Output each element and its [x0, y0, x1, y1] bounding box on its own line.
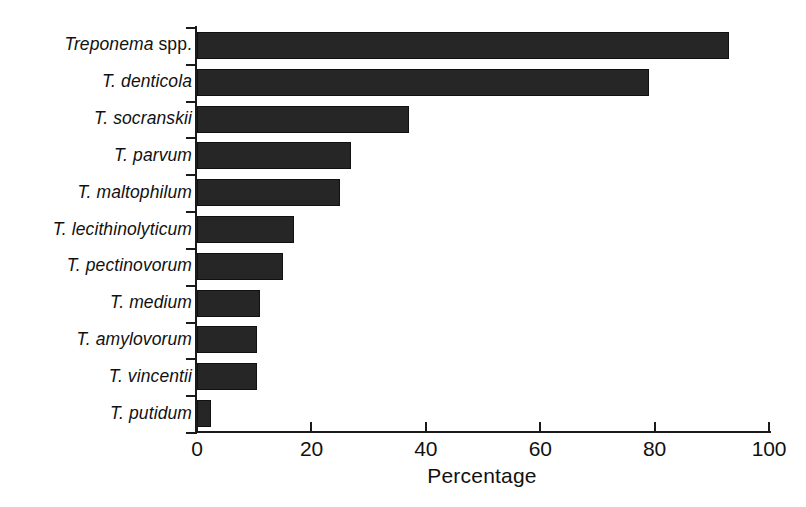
category-label: T. socranskii	[94, 108, 192, 129]
bar	[197, 253, 283, 280]
x-axis-tick	[768, 422, 770, 433]
category-label: T. putidum	[110, 403, 192, 424]
category-label: T. pectinovorum	[67, 255, 192, 276]
category-label: T. vincentii	[109, 366, 192, 387]
y-axis-tick	[186, 395, 197, 397]
bar	[197, 326, 257, 353]
bar	[197, 142, 351, 169]
category-label: T. medium	[110, 292, 192, 313]
bar	[197, 106, 409, 133]
y-axis-tick	[186, 137, 197, 139]
category-label: T. denticola	[102, 71, 192, 92]
plot-area	[197, 27, 769, 432]
x-axis-line	[195, 431, 771, 433]
x-axis-tick-label: 20	[300, 437, 323, 461]
bar	[197, 179, 340, 206]
bar	[197, 69, 649, 96]
category-label: T. lecithinolyticum	[53, 219, 192, 240]
category-label: T. parvum	[114, 145, 192, 166]
bar	[197, 400, 211, 427]
x-axis-tick	[196, 422, 198, 433]
y-axis-tick	[186, 27, 197, 29]
x-axis-tick-label: 100	[752, 437, 786, 461]
x-axis-tick-label: 60	[529, 437, 552, 461]
x-axis-title-text: Percentage	[427, 464, 536, 488]
x-axis-tick	[539, 422, 541, 433]
y-axis-tick	[186, 64, 197, 66]
bar	[197, 216, 294, 243]
y-axis-tick	[186, 101, 197, 103]
y-axis-tick	[186, 248, 197, 250]
x-axis-tick	[425, 422, 427, 433]
y-axis-tick	[186, 174, 197, 176]
x-axis-tick-label: 0	[191, 437, 202, 461]
x-axis-tick	[654, 422, 656, 433]
y-axis-tick	[186, 285, 197, 287]
bar-chart-figure: Treponema spp.T. denticolaT. socranskiiT…	[0, 0, 806, 507]
category-label: T. amylovorum	[77, 329, 192, 350]
y-axis-tick	[186, 211, 197, 213]
category-label: Treponema spp.	[64, 34, 192, 55]
x-axis-tick-label: 40	[414, 437, 437, 461]
y-axis-tick	[186, 322, 197, 324]
y-axis-tick	[186, 358, 197, 360]
x-axis-title: Percentage	[0, 464, 806, 488]
bar	[197, 363, 257, 390]
x-axis-tick-label: 80	[643, 437, 666, 461]
bar	[197, 290, 260, 317]
category-label: T. maltophilum	[77, 182, 192, 203]
x-axis-tick	[310, 422, 312, 433]
bar	[197, 32, 729, 59]
